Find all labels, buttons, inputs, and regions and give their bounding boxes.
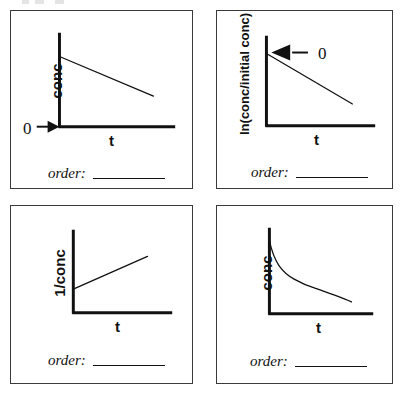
- zero-annotation-label: 0: [23, 120, 32, 137]
- order-answer-row[interactable]: order:: [48, 166, 165, 181]
- order-prompt-label: order:: [250, 354, 288, 369]
- zero-order-panel: conc t 0 order:: [10, 10, 193, 189]
- decay-curve-panel: conc t order:: [216, 205, 393, 384]
- x-axis-label: t: [314, 132, 319, 147]
- data-series-line: [59, 56, 153, 96]
- page-edge-artifact: [22, 0, 68, 4]
- y-axis-label: 1/conc: [52, 230, 67, 316]
- order-prompt-label: order:: [48, 166, 86, 181]
- y-axis-label: conc: [49, 33, 64, 129]
- data-series-line: [266, 54, 352, 104]
- worksheet-sheet: conc t 0 order: ln(conc/initial conc) t …: [0, 0, 409, 393]
- order-prompt-label: order:: [251, 165, 289, 180]
- x-axis-label: t: [115, 319, 120, 334]
- x-axis-label: t: [316, 320, 321, 335]
- zero-annotation-label: 0: [318, 45, 327, 62]
- order-answer-blank[interactable]: [296, 177, 368, 178]
- order-prompt-label: order:: [48, 353, 86, 368]
- y-axis-label: ln(conc/initial conc): [238, 25, 251, 135]
- order-answer-blank[interactable]: [93, 365, 165, 366]
- order-answer-row[interactable]: order:: [251, 165, 368, 180]
- order-answer-blank[interactable]: [93, 178, 165, 179]
- second-order-panel: 1/conc t order:: [10, 205, 193, 384]
- zero-order-plot-svg: [11, 11, 192, 188]
- data-series-line: [73, 256, 147, 289]
- zero-order-plot: [11, 11, 192, 188]
- order-answer-row[interactable]: order:: [48, 353, 165, 368]
- x-axis-label: t: [109, 133, 114, 148]
- first-order-panel: ln(conc/initial conc) t 0 order:: [216, 10, 393, 189]
- data-series-curve: [269, 241, 351, 302]
- order-answer-blank[interactable]: [295, 366, 367, 367]
- y-axis-label: conc: [259, 236, 274, 310]
- order-answer-row[interactable]: order:: [250, 354, 367, 369]
